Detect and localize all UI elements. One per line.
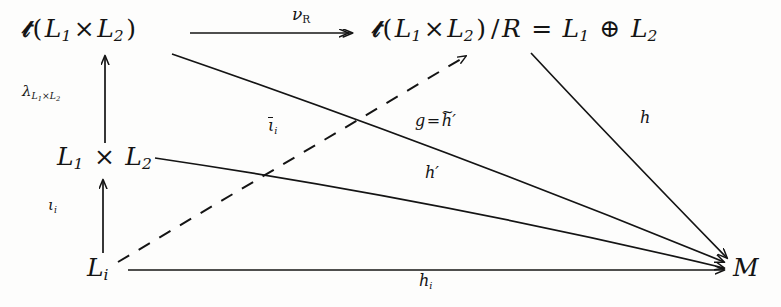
frak-d-glyph: 𝓉 [372,14,380,43]
tilde-accent: ~ [441,105,454,120]
lambda-glyph: λ [22,82,32,100]
node-bot-left-L: Li [87,253,109,282]
edge-h [531,53,727,258]
paren-open: ( [30,14,45,43]
node-top-left-L1: L1 [45,14,71,43]
paren-close: ) [474,14,489,43]
iota-bar-glyph: ι [268,118,274,134]
quotient-slash: / [488,14,501,43]
node-top-left-L2: L2 [97,14,123,43]
paren-close: ) [124,14,139,43]
edge-label-h-prime: h′ [425,165,439,181]
node-mid-left: L1 × L2 [57,144,152,169]
h-glyph: h [419,271,429,290]
edge-label-nu-R: νR [292,6,310,23]
edge-iota-bar [118,56,466,262]
h-tilde-glyph: ~h [442,113,452,129]
node-top-right: 𝓉(L1×L2)/R = L1 ⊕ L2 [372,16,657,41]
edge-label-g: g=~h′ [415,113,456,129]
nu-glyph: ν [292,4,302,24]
node-target-M: M [733,255,759,280]
oplus-icon: ⊕ [589,14,631,43]
commutative-diagram: D(L1xL2)/R (dashed) --> 𝓉(L1×L2) 𝓉(L1×L2… [0,0,781,307]
edge-g [172,54,724,262]
sum-L1: L1 [563,14,589,43]
edge-h-prime [155,158,724,268]
paren-open: ( [380,14,395,43]
iota-bar-subscript: i [274,125,277,136]
quotient-R: R [502,14,521,43]
equals-sign: = [521,14,563,43]
node-mid-left-L2: L2 [125,142,151,171]
edge-label-iota: ιi [48,198,57,213]
node-top-right-L1: L1 [395,14,421,43]
times-sign: × [421,14,447,43]
h-glyph: h [640,108,650,127]
h-subscript-i: i [429,280,432,291]
node-bot-left: Li [87,255,109,280]
lambda-subscript: L1×L2 [32,90,61,101]
h-glyph: h [425,163,435,182]
g-glyph: g [415,111,425,130]
node-top-left: 𝓉(L1×L2) [22,16,138,41]
edge-label-h: h [640,110,650,126]
iota-subscript: i [54,204,57,215]
prime-mark: ′ [435,163,439,182]
times-sign: × [83,142,125,171]
edge-label-lambda: λL1×L2 [22,84,60,99]
node-target-label: M [733,253,759,282]
times-sign: × [71,14,97,43]
node-top-right-L2: L2 [447,14,473,43]
equals-sign: = [425,111,442,130]
edge-label-iota-bar: ιi [268,118,277,134]
node-mid-left-L1: L1 [57,142,83,171]
edge-label-h-i: hi [419,273,432,289]
sum-L2: L2 [631,14,657,43]
overline-bar [268,117,273,118]
nu-subscript-R: R [302,13,310,25]
frak-d-glyph: 𝓉 [22,14,30,43]
